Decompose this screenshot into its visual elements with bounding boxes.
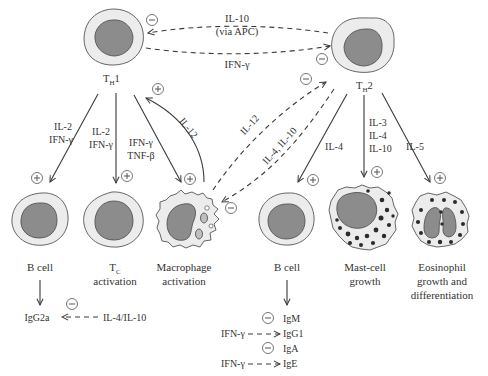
th1-cell: [84, 9, 143, 65]
macrophage-caption: Macrophage: [157, 261, 212, 273]
il4-label: IL-4: [325, 141, 343, 152]
il2-label: IL-2: [92, 126, 110, 137]
ige-label: IgE: [283, 358, 297, 369]
mast-cell-caption: Mast-cell: [344, 261, 386, 273]
mast-cell-caption-line2: growth: [349, 275, 381, 287]
plus-icon: [372, 167, 383, 178]
b-cell-left-caption: B cell: [27, 261, 53, 273]
plus-icon: [435, 173, 446, 184]
th2-to-eosinophil-arrow: [382, 93, 430, 182]
th2-cell: [332, 18, 394, 72]
th2-label: TH2: [356, 80, 373, 94]
igg1-label: IgG1: [283, 328, 304, 339]
ifng-label: IFN-γ: [49, 134, 73, 145]
il12-label: IL-12: [238, 113, 261, 137]
il4-il10-label: IL-4/IL-10: [103, 312, 146, 323]
il2-label: IL-2: [54, 121, 72, 132]
eosinophil-caption-line3: differentiation: [411, 289, 474, 301]
minus-icon: [317, 54, 328, 65]
plus-icon: [308, 175, 319, 186]
minus-icon: [263, 313, 274, 324]
il12-inhibition-arrow: [213, 82, 326, 190]
il4-il10-label: IL-4, IL-10: [260, 125, 299, 166]
b-cell-right: [259, 193, 314, 245]
macrophage-to-th1-arrow: [146, 98, 204, 182]
minus-icon: [147, 15, 158, 26]
il4-label: IL-4: [369, 130, 387, 141]
b-cell-left: [12, 193, 68, 245]
th1-th2-regulation-diagram: TH1 TH2 IL-10 (via APC) IFN-γ IL-2 IFN-γ…: [0, 0, 488, 376]
il10-label: IL-10: [369, 143, 392, 154]
tc-caption: TC: [109, 261, 121, 276]
th1-label: TH1: [103, 73, 120, 87]
ifng-label: IFN-γ: [221, 358, 245, 369]
minus-icon: [263, 343, 274, 354]
tnfb-label: TNF-β: [127, 150, 154, 161]
tc-cell: [84, 192, 144, 247]
eosinophil-caption-line2: growth and: [417, 275, 467, 287]
il12-label: IL-12: [177, 115, 200, 140]
tc-caption-line2: activation: [93, 275, 137, 287]
plus-icon: [185, 174, 196, 185]
il3-label: IL-3: [369, 117, 387, 128]
igm-label: IgM: [283, 313, 300, 324]
igg2a-label: IgG2a: [25, 312, 51, 323]
eosinophil-cell: [412, 192, 469, 247]
minus-icon: [67, 299, 78, 310]
plus-icon: [32, 173, 43, 184]
minus-icon: [226, 203, 237, 214]
ifng-label: IFN-γ: [221, 328, 245, 339]
il10-label: IL-10: [225, 13, 249, 24]
macrophage-cell: [156, 190, 219, 248]
mast-cell: [329, 185, 398, 250]
iga-label: IgA: [283, 343, 299, 354]
plus-icon: [153, 84, 164, 95]
macrophage-caption-line2: activation: [162, 275, 206, 287]
ifng-inhibition-arrow: [146, 46, 330, 54]
minus-icon: [301, 74, 312, 85]
plus-icon: [122, 171, 133, 182]
ifng-label: IFN-γ: [224, 59, 249, 70]
b-cell-right-caption: B cell: [274, 261, 300, 273]
th2-to-bcell-arrow: [298, 94, 347, 182]
eosinophil-caption: Eosinophil: [418, 261, 466, 273]
via-apc-label: (via APC): [216, 26, 259, 38]
ifng-label: IFN-γ: [89, 139, 113, 150]
ifng-label: IFN-γ: [129, 137, 153, 148]
il5-label: IL-5: [406, 141, 424, 152]
